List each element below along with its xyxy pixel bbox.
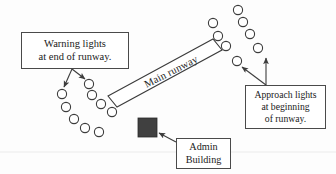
warning-light [80, 123, 89, 132]
approach-light [221, 41, 230, 50]
approach-lights-callout[interactable]: Approach lights at beginning of runway. [245, 85, 326, 129]
admin-building-square [138, 118, 157, 137]
warning-arrow-left [64, 69, 72, 87]
approach-callout-line2: at beginning [261, 101, 309, 113]
approach-lights-inner-arc [233, 5, 262, 52]
warning-light [69, 114, 78, 123]
approach-light [208, 18, 217, 27]
warning-callout-line2: at end of runway. [39, 51, 112, 64]
approach-callout-arrows [242, 58, 266, 85]
warning-light [84, 79, 93, 88]
approach-light [233, 5, 242, 14]
warning-light [96, 99, 105, 108]
warning-light [57, 89, 66, 98]
approach-light [238, 17, 247, 26]
approach-arrow-left [242, 67, 266, 85]
approach-light [253, 43, 262, 52]
approach-light [245, 29, 254, 38]
approach-callout-line1: Approach lights [254, 89, 316, 101]
warning-light [94, 127, 103, 136]
admin-arrow [159, 133, 176, 142]
warning-light [87, 90, 96, 99]
admin-callout-arrow [159, 133, 176, 142]
warning-arrow-right [72, 69, 85, 79]
admin-callout-line1: Admin [189, 141, 217, 153]
admin-callout-line2: Building [186, 154, 222, 166]
warning-light [107, 107, 116, 116]
warning-light [61, 102, 70, 111]
warning-callout-arrows [64, 69, 85, 87]
warning-lights-callout[interactable]: Warning lights at end of runway. [21, 32, 129, 69]
approach-light [213, 31, 222, 40]
approach-light [232, 56, 241, 65]
approach-callout-line3: of runway. [265, 113, 306, 125]
warning-callout-line1: Warning lights [44, 38, 106, 51]
admin-building-callout[interactable]: Admin Building [176, 138, 231, 169]
diagram-canvas-wrapper: Main runway Warning lights at end of run… [0, 0, 336, 174]
